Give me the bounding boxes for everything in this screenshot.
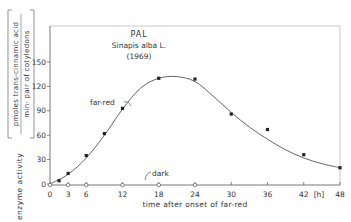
dark-point <box>84 183 88 187</box>
far-red-point <box>67 172 70 175</box>
y-tick-label: 60 <box>36 131 46 140</box>
x-tick-label: 36 <box>263 190 273 199</box>
far-red-point <box>302 153 305 156</box>
x-tick-label: 6 <box>84 190 89 199</box>
pal-activity-chart: 0306090120150 03612182430364248 PAL Sina… <box>0 0 351 222</box>
x-axis-label: time after onset of far-red <box>142 200 247 209</box>
far-red-point <box>230 112 233 115</box>
y-unit-denominator: min· pair of cotyledons <box>23 30 31 117</box>
y-tick-label: 30 <box>36 155 46 164</box>
far-red-point <box>103 132 106 135</box>
fit-curve <box>50 76 340 184</box>
x-tick-label: 12 <box>118 190 128 199</box>
dark-pointer <box>145 172 151 180</box>
far-red-point <box>193 77 196 80</box>
dark-point <box>66 183 70 187</box>
dark-point <box>157 183 161 187</box>
y-tick-label: 0 <box>41 180 46 189</box>
far-red-point <box>57 179 60 182</box>
y-axis-label-group: enzyme activity pmoles trans-cinnamic ac… <box>8 10 34 220</box>
x-tick-label: 30 <box>226 190 236 199</box>
far-red-label: far-red <box>90 98 115 107</box>
x-tick-label: 0 <box>48 190 53 199</box>
far-red-points <box>57 77 341 183</box>
far-red-point <box>85 154 88 157</box>
x-tick-label: 42 <box>299 190 309 199</box>
far-red-point <box>121 107 124 110</box>
dark-point <box>48 183 52 187</box>
y-unit-numerator: pmoles trans-cinnamic acid <box>12 22 20 126</box>
dark-point <box>121 183 125 187</box>
chart-year: (1969) <box>127 52 152 61</box>
dark-label: dark <box>152 169 169 178</box>
x-tick-label: 48 <box>335 190 345 199</box>
x-tick-label: 18 <box>154 190 164 199</box>
y-tick-label: 90 <box>36 106 46 115</box>
far-red-point <box>338 166 341 169</box>
chart-subtitle: Sinapis alba L. <box>112 41 166 50</box>
chart-title: PAL <box>130 30 147 39</box>
x-unit-label: [h] <box>314 190 325 199</box>
dark-point <box>193 183 197 187</box>
y-ticks: 0306090120150 <box>32 58 50 189</box>
x-tick-label: 24 <box>190 190 200 199</box>
far-red-point <box>266 128 269 131</box>
y-axis-label: enzyme activity <box>15 153 24 220</box>
far-red-point <box>157 77 160 80</box>
x-tick-label: 3 <box>66 190 71 199</box>
